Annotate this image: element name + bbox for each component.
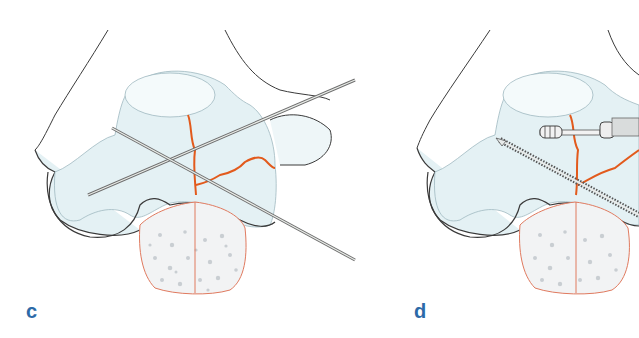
humerus-screw-illustration [400, 0, 639, 338]
humerus-kwire-illustration [0, 0, 360, 338]
panel-d: d [400, 0, 639, 338]
panel-label-d: d [414, 300, 426, 323]
panel-label-c: c [26, 300, 37, 323]
panel-c: c [0, 0, 360, 338]
